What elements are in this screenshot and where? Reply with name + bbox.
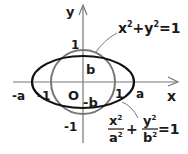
tick-pos-1-x: 1 xyxy=(115,87,123,101)
x-axis-label: x xyxy=(167,88,176,104)
tick-pos-1-y: 1 xyxy=(71,38,79,52)
y-axis-label: y xyxy=(66,4,75,19)
tick-neg-a: -a xyxy=(12,89,25,103)
ellipse-leader-line xyxy=(122,102,138,118)
svg-text:x2+y2=1: x2+y2=1 xyxy=(118,20,181,36)
svg-text:b2: b2 xyxy=(143,130,157,145)
svg-text:a2: a2 xyxy=(109,130,123,145)
coordinate-diagram: y x O -a -1 1 a 1 -1 b -b x2+y2=1 x2 a2 … xyxy=(0,0,188,154)
origin-label: O xyxy=(68,88,79,103)
circle-leader-line xyxy=(96,33,117,52)
svg-text:+: + xyxy=(126,121,138,137)
ellipse-equation: x2 a2 + y2 b2 =1 xyxy=(108,113,179,145)
svg-text:y2: y2 xyxy=(143,113,156,128)
tick-neg-1-y: -1 xyxy=(64,120,77,134)
tick-neg-b: -b xyxy=(83,95,98,110)
tick-pos-a: a xyxy=(136,87,144,101)
tick-pos-b: b xyxy=(86,62,95,77)
x-axis xyxy=(13,77,178,86)
circle-equation: x2+y2=1 xyxy=(118,20,181,36)
svg-text:=1: =1 xyxy=(158,121,179,137)
tick-neg-1-x: -1 xyxy=(37,89,50,103)
svg-text:x2: x2 xyxy=(109,113,122,128)
